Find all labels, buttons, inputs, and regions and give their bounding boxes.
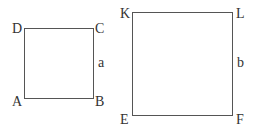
side-label-a: a xyxy=(98,55,105,70)
large-square-outline xyxy=(133,13,233,116)
two-squares-diagram: D C B A a K L F E b xyxy=(0,0,255,136)
vertex-label-B: B xyxy=(95,94,104,109)
large-square: K L F E b xyxy=(120,6,245,127)
vertex-label-E: E xyxy=(120,112,129,127)
vertex-label-D: D xyxy=(12,21,22,36)
small-square: D C B A a xyxy=(12,21,105,109)
vertex-label-L: L xyxy=(236,6,245,21)
small-square-outline xyxy=(25,29,94,99)
side-label-b: b xyxy=(237,55,244,70)
vertex-label-C: C xyxy=(95,21,104,36)
vertex-label-F: F xyxy=(236,112,244,127)
vertex-label-K: K xyxy=(120,6,130,21)
vertex-label-A: A xyxy=(12,94,23,109)
